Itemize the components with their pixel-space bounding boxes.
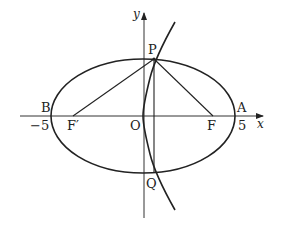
origin-label: O bbox=[130, 118, 141, 133]
point-a-label: A bbox=[236, 100, 247, 115]
tick-label-left: −5 bbox=[30, 118, 49, 133]
point-p-label: P bbox=[148, 42, 157, 57]
point-q-label: Q bbox=[146, 176, 157, 191]
segment-pf bbox=[154, 59, 213, 116]
conic-figure: y x O P Q B A F′ F −5 5 bbox=[0, 0, 283, 233]
segment-pf-prime bbox=[73, 59, 154, 116]
point-f-prime-label: F′ bbox=[67, 118, 79, 133]
point-f-label: F bbox=[207, 118, 216, 133]
y-axis-label: y bbox=[132, 7, 140, 21]
point-b-label: B bbox=[41, 100, 51, 115]
point-p-dot bbox=[152, 57, 155, 60]
tick-label-right: 5 bbox=[238, 118, 246, 133]
x-axis-label: x bbox=[257, 117, 264, 131]
